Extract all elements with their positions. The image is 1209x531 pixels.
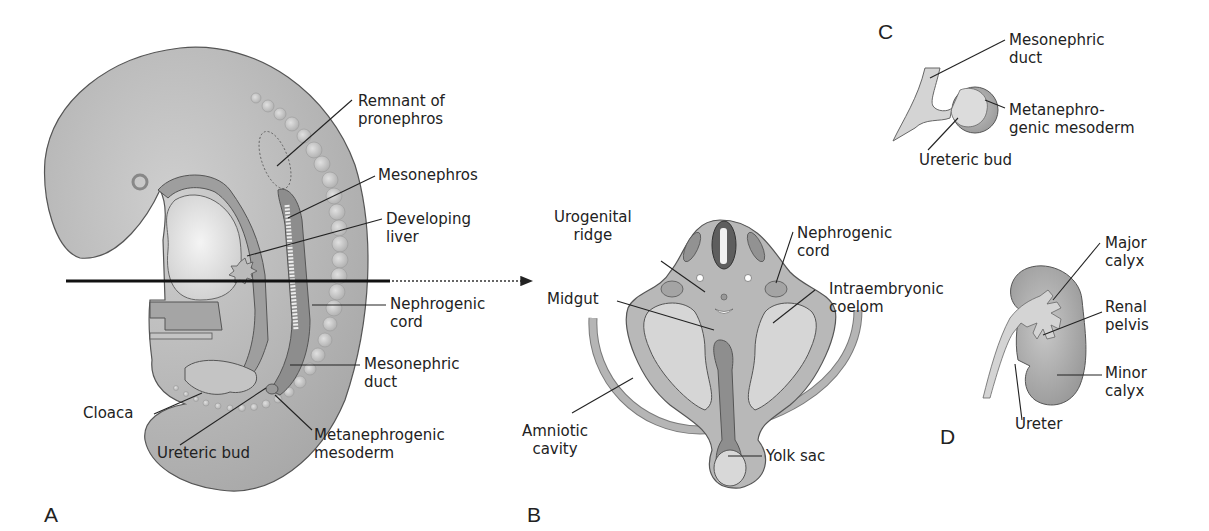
kidney-drawing: [983, 266, 1086, 405]
label-amniotic-cavity: Amniotic cavity: [522, 422, 588, 458]
panel-letter-b: B: [527, 503, 541, 527]
panel-letter-a: A: [44, 503, 58, 527]
label-metanephrogenic-mesoderm-c: Metanephro- genic mesoderm: [1009, 101, 1135, 137]
label-mesonephric-duct-a: Mesonephric duct: [364, 355, 460, 391]
label-metanephrogenic-mesoderm-a: Metanephrogenic mesoderm: [314, 426, 445, 462]
panel-letter-c: C: [878, 20, 893, 44]
label-ureter: Ureter: [1015, 415, 1062, 433]
allantois: [150, 333, 212, 339]
embryo-drawing: [45, 47, 532, 491]
label-nephrogenic-cord-b: Nephrogenic cord: [797, 224, 892, 260]
label-major-calyx: Major calyx: [1105, 234, 1147, 270]
label-developing-liver: Developing liver: [386, 210, 471, 246]
label-intraembryonic-coelom: Intraembryonic coelom: [829, 280, 944, 316]
label-urogenital-ridge: Urogenital ridge: [554, 208, 632, 244]
label-mesonephric-duct-c: Mesonephric duct: [1009, 31, 1105, 67]
label-yolk-sac: Yolk sac: [766, 447, 825, 465]
label-renal-pelvis: Renal pelvis: [1105, 298, 1149, 334]
label-remnant-of-pronephros: Remnant of pronephros: [358, 92, 445, 128]
label-nephrogenic-cord-a: Nephrogenic cord: [390, 295, 485, 331]
nephrogenic-cord-right: [765, 281, 787, 297]
yolk-sac: [714, 450, 746, 486]
panel-letter-d: D: [940, 425, 955, 449]
mesonephric-duct-tube: [893, 68, 952, 141]
ureteric-bud-drawing: [893, 68, 998, 141]
metanephric-blob: [266, 384, 278, 394]
label-midgut: Midgut: [547, 290, 599, 308]
label-cloaca: Cloaca: [83, 404, 133, 422]
label-ureteric-bud-a: Ureteric bud: [157, 444, 250, 462]
label-ureteric-bud-c: Ureteric bud: [919, 151, 1012, 169]
nephrogenic-cord-left: [661, 281, 683, 297]
label-minor-calyx: Minor calyx: [1105, 364, 1147, 400]
label-mesonephros: Mesonephros: [378, 166, 478, 184]
